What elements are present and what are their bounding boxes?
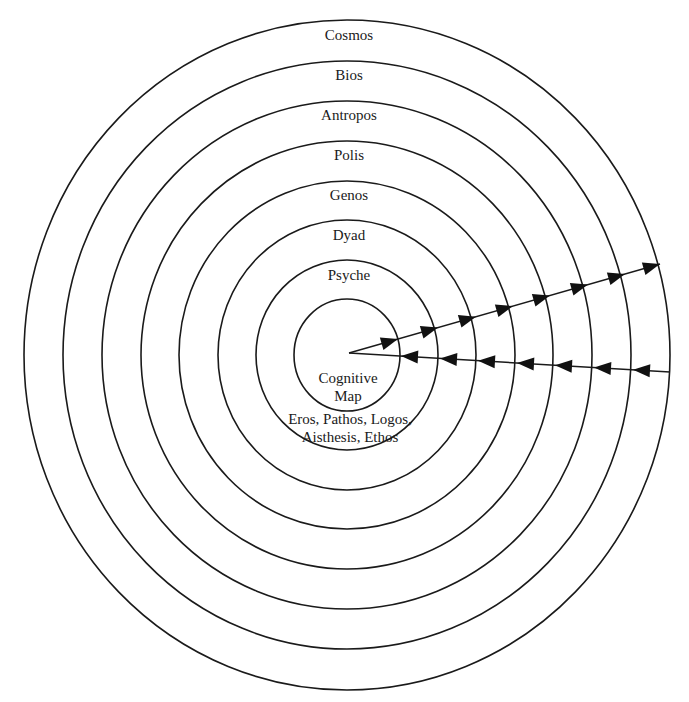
outward-arrowhead-icon — [642, 262, 660, 274]
label-cosmos: Cosmos — [325, 26, 373, 44]
label-antropos: Antropos — [321, 106, 377, 124]
outward-arrowhead-icon — [380, 337, 398, 349]
label-genos: Genos — [330, 186, 368, 204]
label-map: Map — [334, 387, 362, 405]
label-psyche: Psyche — [328, 266, 371, 284]
label-dyad: Dyad — [333, 226, 366, 244]
label-faculties-line-1: Eros, Pathos, Logos, — [288, 410, 412, 428]
label-cognitive: Cognitive — [318, 369, 377, 387]
label-bios: Bios — [335, 66, 363, 84]
inward-arrowhead-icon — [517, 357, 534, 370]
incoming-flow-line — [349, 353, 670, 372]
inward-arrowhead-icon — [633, 364, 650, 377]
ring-polis — [102, 101, 592, 609]
ring-genos — [141, 141, 553, 569]
label-faculties-line-2: Aisthesis, Ethos — [302, 428, 399, 446]
inward-arrowhead-icon — [594, 362, 611, 375]
inward-arrowhead-icon — [555, 360, 572, 373]
inward-arrowhead-icon — [401, 351, 418, 364]
label-polis: Polis — [334, 146, 364, 164]
inward-arrowhead-icon — [478, 355, 495, 368]
inward-arrowhead-icon — [440, 353, 457, 366]
